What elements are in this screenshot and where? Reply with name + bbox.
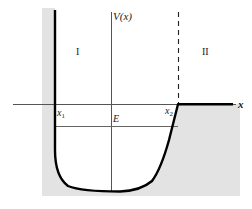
- turning-point-x1-label: x1: [57, 108, 65, 120]
- potential-well-figure: V(x) x I II x1 x2 E: [0, 0, 252, 209]
- shaded-forbidden-region-left: [42, 8, 55, 196]
- potential-diagram-svg: [0, 0, 252, 209]
- v-of-x-label: V(x): [113, 11, 132, 22]
- energy-label: E: [113, 114, 119, 124]
- x1-subscript: 1: [61, 112, 65, 120]
- shaded-forbidden-region-well: [55, 104, 240, 196]
- x-axis-label: x: [238, 99, 244, 110]
- region-two-label: II: [202, 47, 209, 57]
- turning-point-x2-label: x2: [165, 106, 173, 118]
- x2-subscript: 2: [169, 110, 173, 118]
- region-one-label: I: [76, 47, 79, 57]
